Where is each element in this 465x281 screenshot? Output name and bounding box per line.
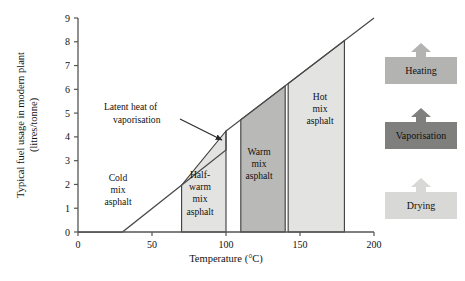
legend-label: Vaporisation xyxy=(396,130,447,141)
latent-heat-annotation: Latent heat of vaporisation xyxy=(104,101,222,140)
annotation-line1: Latent heat of xyxy=(104,101,158,112)
x-tick-label: 0 xyxy=(76,239,81,250)
x-tick-label: 100 xyxy=(219,239,234,250)
band-label-line: mix xyxy=(252,158,267,169)
y-tick-label: 0 xyxy=(65,227,70,238)
band-label-line: Warm xyxy=(247,146,271,157)
band-label-line: asphalt xyxy=(104,196,132,207)
legend-item-drying[interactable]: Drying xyxy=(385,178,457,219)
legend: HeatingVaporisationDrying xyxy=(385,43,457,219)
band-hot-mix xyxy=(288,41,344,232)
y-tick-label: 9 xyxy=(65,13,70,24)
legend-item-vaporisation[interactable]: Vaporisation xyxy=(385,108,457,149)
band-label-line: asphalt xyxy=(306,115,334,126)
fuel-usage-chart: 0123456789 050100150200 Temperature (°C)… xyxy=(0,0,465,281)
legend-label: Heating xyxy=(405,65,437,76)
x-axis-title: Temperature (°C) xyxy=(189,253,263,265)
y-tick-label: 4 xyxy=(65,131,70,142)
band-label-line: asphalt xyxy=(186,206,214,217)
x-tick-label: 150 xyxy=(293,239,308,250)
annotation-line2: vaporisation xyxy=(113,114,161,125)
band-label-line: Hot xyxy=(313,91,328,102)
band-label-line: Cold xyxy=(109,172,128,183)
y-tick-label: 2 xyxy=(65,179,70,190)
annotation-arrow-icon xyxy=(180,119,222,140)
y-axis-title: Typical fuel usage in modern plant (litr… xyxy=(15,52,40,198)
band-label-line: Half- xyxy=(190,169,210,180)
legend-item-heating[interactable]: Heating xyxy=(385,43,457,84)
y-tick-label: 7 xyxy=(65,60,70,71)
y-tick-label: 1 xyxy=(65,203,70,214)
band-label-line: asphalt xyxy=(245,170,273,181)
y-tick-label: 3 xyxy=(65,155,70,166)
band-label-cold-mix-asphalt: Coldmixasphalt xyxy=(104,172,132,207)
band-label-line: mix xyxy=(111,184,126,195)
chart-figure: 0123456789 050100150200 Temperature (°C)… xyxy=(0,0,465,281)
y-tick-label: 6 xyxy=(65,84,70,95)
band-label-line: mix xyxy=(193,193,208,204)
x-axis-tick-labels: 050100150200 xyxy=(76,239,382,250)
x-tick-label: 50 xyxy=(147,239,157,250)
band-label-line: warm xyxy=(189,181,211,192)
y-tick-label: 5 xyxy=(65,108,70,119)
band-label-line: mix xyxy=(313,103,328,114)
legend-label: Drying xyxy=(407,200,435,211)
y-axis-title-line2: (litres/tonne) xyxy=(28,97,40,152)
y-axis-tick-labels: 0123456789 xyxy=(65,13,70,238)
y-axis-title-line1: Typical fuel usage in modern plant xyxy=(15,52,26,198)
x-tick-label: 200 xyxy=(367,239,382,250)
y-tick-label: 8 xyxy=(65,36,70,47)
